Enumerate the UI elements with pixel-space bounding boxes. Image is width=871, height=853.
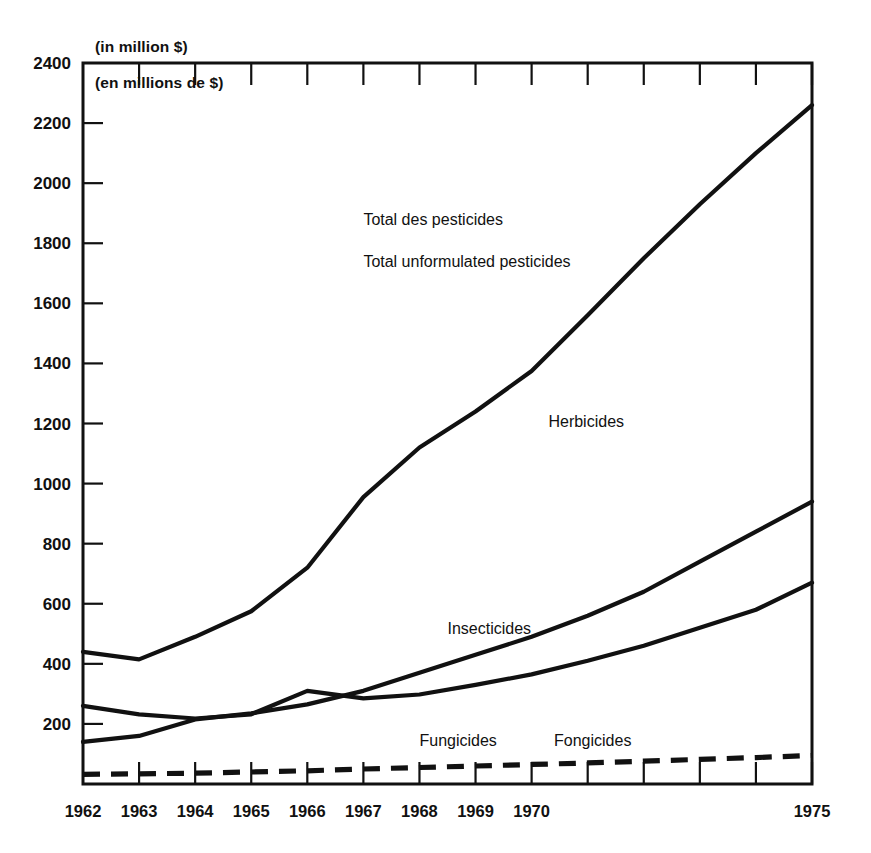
series-annotation-4: Fungicides xyxy=(419,732,496,749)
y-tick-label-1400: 1400 xyxy=(33,354,71,373)
y-tick-label-1600: 1600 xyxy=(33,294,71,313)
x-tick-label-1975: 1975 xyxy=(794,802,831,820)
x-axis-tick-labels: 1962196319641965196619671968196919701975 xyxy=(65,802,831,820)
x-axis-top-ticks xyxy=(139,63,812,85)
x-tick-label-1964: 1964 xyxy=(177,802,215,820)
x-tick-label-1965: 1965 xyxy=(233,802,270,820)
series-annotation-1: Total unformulated pesticides xyxy=(363,253,570,270)
series-lines xyxy=(83,105,812,774)
series-line-2 xyxy=(83,583,812,719)
series-annotation-2: Herbicides xyxy=(548,413,624,430)
line-chart-plot: 2004006008001000120014001600180020002200… xyxy=(0,0,871,853)
y-tick-label-800: 800 xyxy=(43,535,71,554)
x-tick-label-1968: 1968 xyxy=(401,802,438,820)
y-tick-label-2000: 2000 xyxy=(33,174,71,193)
y-tick-label-2400: 2400 xyxy=(33,54,71,73)
y-tick-label-400: 400 xyxy=(43,655,71,674)
series-annotation-0: Total des pesticides xyxy=(363,211,503,228)
y-tick-label-600: 600 xyxy=(43,595,71,614)
chart-container: (in million $) (en millions de $) 200400… xyxy=(0,0,871,853)
y-tick-label-1200: 1200 xyxy=(33,415,71,434)
series-annotation-3: Insecticides xyxy=(448,620,532,637)
y-tick-label-2200: 2200 xyxy=(33,114,71,133)
y-tick-label-1800: 1800 xyxy=(33,234,71,253)
x-tick-label-1963: 1963 xyxy=(121,802,158,820)
y-tick-label-1000: 1000 xyxy=(33,475,71,494)
x-tick-label-1962: 1962 xyxy=(65,802,102,820)
x-tick-label-1970: 1970 xyxy=(513,802,550,820)
x-tick-label-1967: 1967 xyxy=(345,802,382,820)
y-tick-label-200: 200 xyxy=(43,715,71,734)
series-line-0 xyxy=(83,105,812,659)
y-axis-tick-labels: 2004006008001000120014001600180020002200… xyxy=(33,54,71,734)
y-axis-ticks xyxy=(83,123,103,724)
x-tick-label-1966: 1966 xyxy=(289,802,326,820)
x-tick-label-1969: 1969 xyxy=(457,802,494,820)
series-annotation-5: Fongicides xyxy=(554,732,631,749)
series-annotations: Total des pesticidesTotal unformulated p… xyxy=(363,211,631,748)
plot-frame xyxy=(83,63,812,784)
series-line-3 xyxy=(83,755,812,774)
